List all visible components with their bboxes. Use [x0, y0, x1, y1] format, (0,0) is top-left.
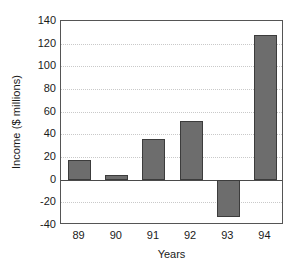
y-axis-tick-labels: 140120100806040200-20-40	[24, 20, 56, 224]
y-axis-tick-label: 0	[24, 173, 56, 184]
zero-line	[61, 180, 282, 181]
plot-area	[60, 20, 283, 224]
x-axis-tick-label: 94	[258, 228, 270, 242]
bar	[68, 160, 91, 179]
gridline	[61, 202, 282, 203]
x-axis-tick-label: 93	[221, 228, 233, 242]
gridline	[61, 89, 282, 90]
bar	[142, 139, 165, 180]
y-axis-tick-label: 40	[24, 128, 56, 139]
y-axis-tick-label: 140	[24, 15, 56, 26]
x-axis-tick-label: 90	[110, 228, 122, 242]
y-axis-tick-label: 100	[24, 60, 56, 71]
gridline	[61, 66, 282, 67]
gridline	[61, 44, 282, 45]
y-axis-tick-label: 20	[24, 151, 56, 162]
x-axis-title: Years	[60, 248, 283, 261]
y-axis-tick-label: -40	[24, 219, 56, 230]
gridline	[61, 134, 282, 135]
bar-chart: Income ($ millions) 140120100806040200-2…	[0, 0, 306, 274]
y-axis-title: Income ($ millions)	[8, 20, 24, 224]
bar	[254, 35, 277, 180]
y-axis-tick-label: 80	[24, 83, 56, 94]
x-axis-tick-label: 91	[147, 228, 159, 242]
x-axis-tick-label: 92	[184, 228, 196, 242]
gridline	[61, 157, 282, 158]
x-axis-tick-label: 89	[72, 228, 84, 242]
y-axis-tick-label: -20	[24, 196, 56, 207]
bar	[180, 121, 203, 180]
x-axis-tick-labels: 899091929394	[60, 228, 283, 244]
bar	[105, 175, 128, 180]
y-axis-tick-label: 120	[24, 37, 56, 48]
y-axis-tick-label: 60	[24, 105, 56, 116]
gridline	[61, 112, 282, 113]
bar	[217, 180, 240, 217]
